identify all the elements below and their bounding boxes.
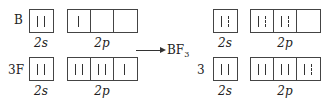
b-2p-orbitals (67, 9, 138, 33)
electron (44, 64, 45, 75)
product-label: BF3 (167, 43, 189, 62)
orbital-box (114, 58, 137, 80)
electron (304, 64, 305, 75)
atom-label-b: B (14, 13, 23, 27)
electron (221, 64, 222, 75)
bf3-f-2p-label: 2p (250, 84, 320, 98)
shared-electron (288, 16, 289, 27)
electron (258, 16, 259, 27)
atom-label-3f: 3F (8, 63, 24, 77)
electron (265, 64, 266, 75)
bf3-f-2s-label: 2s (213, 84, 237, 98)
electron (281, 16, 282, 27)
electron (82, 64, 83, 75)
electron (124, 64, 125, 75)
arrow-head-icon (160, 47, 166, 53)
b-2s-orbital (29, 9, 54, 33)
bf3-b-2s-label: 2s (213, 36, 237, 50)
product-formula: BF (167, 43, 184, 57)
electron (258, 64, 259, 75)
orbital-box (297, 58, 320, 80)
orbital-box (214, 10, 237, 32)
bf3-b-2p-label: 2p (250, 36, 320, 50)
bf3-f-2p-orbitals (250, 57, 321, 81)
orbital-box (30, 58, 53, 80)
orbital-box (251, 10, 274, 32)
electron (44, 16, 45, 27)
reaction-arrow (136, 50, 160, 51)
electron (105, 64, 106, 75)
electron (98, 64, 99, 75)
electron (228, 64, 229, 75)
b-2p-label: 2p (67, 36, 137, 50)
shared-electron (265, 16, 266, 27)
electron (221, 16, 222, 27)
bf3-b-2s-orbital (213, 9, 238, 33)
electron (37, 16, 38, 27)
orbital-box (91, 58, 114, 80)
electron (288, 64, 289, 75)
orbital-box (68, 10, 91, 32)
bf3-b-2p-orbitals (250, 9, 321, 33)
orbital-box (30, 10, 53, 32)
f-2s-label: 2s (29, 84, 53, 98)
orbital-box (251, 58, 274, 80)
shared-electron (311, 64, 312, 75)
electron (37, 64, 38, 75)
orbital-box (214, 58, 237, 80)
orbital-box (297, 10, 320, 32)
orbital-box (91, 10, 114, 32)
orbital-box (274, 58, 297, 80)
orbital-box (68, 58, 91, 80)
product-subscript: 3 (184, 50, 189, 59)
b-2s-label: 2s (29, 36, 53, 50)
atom-label-3: 3 (197, 63, 205, 77)
f-2s-orbital (29, 57, 54, 81)
bf3-f-2s-orbital (213, 57, 238, 81)
electron (75, 64, 76, 75)
f-2p-orbitals (67, 57, 138, 81)
orbital-box (114, 10, 137, 32)
shared-electron (228, 16, 229, 27)
electron (78, 16, 79, 27)
orbital-box (274, 10, 297, 32)
f-2p-label: 2p (67, 84, 137, 98)
electron (281, 64, 282, 75)
